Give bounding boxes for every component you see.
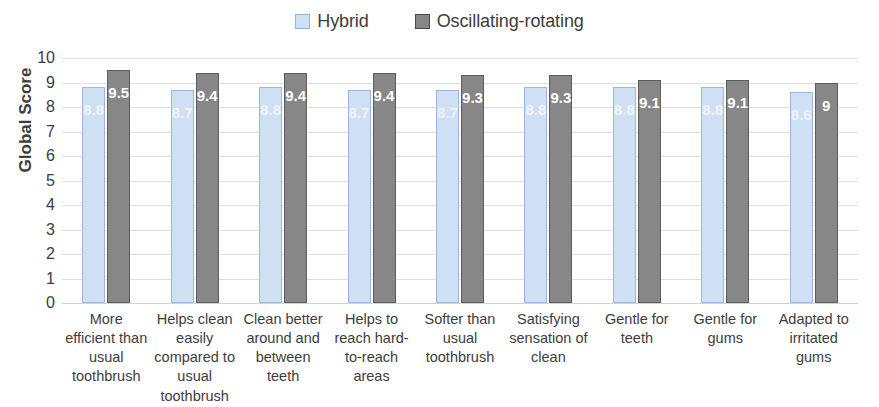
bar-value-label: 8.8 (525, 101, 546, 118)
bar-hybrid: 8.6 (790, 92, 813, 303)
y-axis-tick-label: 10 (37, 49, 55, 67)
bar-hybrid: 8.7 (171, 90, 194, 303)
bar-value-label: 8.8 (83, 101, 104, 118)
bar-oscillating-rotating: 9.4 (196, 73, 219, 303)
x-axis-category-label: Clean better around and between teeth (239, 310, 327, 406)
bar-group: 8.79.4 (150, 58, 238, 303)
bar-value-label: 9.4 (197, 87, 218, 104)
bar-value-label: 8.7 (349, 104, 370, 121)
bar-group: 8.89.1 (593, 58, 681, 303)
bar-oscillating-rotating: 9.1 (726, 80, 749, 303)
bar-hybrid: 8.7 (436, 90, 459, 303)
x-axis-category-label: Helps clean easily compared to usual too… (150, 310, 238, 406)
x-axis-category-label: Softer than usual toothbrush (416, 310, 504, 406)
legend-swatch-icon-oscillating-rotating (415, 14, 430, 29)
legend-entry-hybrid: Hybrid (295, 11, 368, 32)
legend-label-oscillating-rotating: Oscillating-rotating (437, 11, 584, 32)
bar-value-label: 8.8 (260, 101, 281, 118)
gridline (62, 303, 858, 304)
y-axis-tick-label: 2 (46, 245, 55, 263)
bar-oscillating-rotating: 9.4 (284, 73, 307, 303)
bar-value-label: 9.1 (727, 94, 748, 111)
y-axis-tick-label: 3 (46, 221, 55, 239)
bar-groups: 8.89.58.79.48.89.48.79.48.79.38.89.38.89… (62, 58, 858, 303)
y-axis-tick-label: 8 (46, 98, 55, 116)
bar-oscillating-rotating: 9.3 (549, 75, 572, 303)
bar-hybrid: 8.8 (82, 87, 105, 303)
bar-hybrid: 8.8 (701, 87, 724, 303)
bar-value-label: 9.3 (462, 89, 483, 106)
legend-label-hybrid: Hybrid (317, 11, 368, 32)
bar-value-label: 9.1 (639, 94, 660, 111)
x-axis-category-label: Adapted to irritated gums (770, 310, 858, 406)
bar-oscillating-rotating: 9.5 (107, 70, 130, 303)
bar-value-label: 9.3 (550, 89, 571, 106)
y-axis-tick-label: 1 (46, 270, 55, 288)
bar-value-label: 8.7 (437, 104, 458, 121)
bar-value-label: 9 (822, 97, 830, 114)
y-axis-title: Global Score (16, 30, 36, 210)
y-axis-tick-label: 6 (46, 147, 55, 165)
bar-group: 8.89.4 (239, 58, 327, 303)
x-axis-category-label: Gentle for teeth (593, 310, 681, 406)
bar-value-label: 8.6 (791, 106, 812, 123)
bar-hybrid: 8.8 (524, 87, 547, 303)
bar-value-label: 9.5 (108, 84, 129, 101)
y-axis-tick-label: 4 (46, 196, 55, 214)
bar-group: 8.69 (770, 58, 858, 303)
x-axis-category-label: Gentle for gums (681, 310, 769, 406)
bar-group: 8.89.1 (681, 58, 769, 303)
bar-hybrid: 8.7 (348, 90, 371, 303)
y-axis-tick-label: 5 (46, 172, 55, 190)
x-axis-category-label: Helps to reach hard-to-reach areas (327, 310, 415, 406)
bar-value-label: 8.8 (614, 101, 635, 118)
bar-value-label: 8.7 (172, 104, 193, 121)
bar-value-label: 8.8 (702, 101, 723, 118)
bar-oscillating-rotating: 9.4 (373, 73, 396, 303)
bar-value-label: 9.4 (285, 87, 306, 104)
x-axis-category-label: Satisfying sensation of clean (504, 310, 592, 406)
legend-swatch-icon-hybrid (295, 14, 310, 29)
bar-value-label: 9.4 (374, 87, 395, 104)
bar-hybrid: 8.8 (613, 87, 636, 303)
bar-hybrid: 8.8 (259, 87, 282, 303)
chart-legend: Hybrid Oscillating-rotating (0, 6, 879, 36)
bar-group: 8.89.3 (504, 58, 592, 303)
x-axis-category-label: More efficient than usual toothbrush (62, 310, 150, 406)
y-axis-tick-label: 9 (46, 74, 55, 92)
y-axis-tick-label: 0 (46, 294, 55, 312)
bar-group: 8.89.5 (62, 58, 150, 303)
bar-oscillating-rotating: 9.3 (461, 75, 484, 303)
y-axis-tick-label: 7 (46, 123, 55, 141)
x-axis-category-labels: More efficient than usual toothbrushHelp… (62, 310, 858, 406)
bar-oscillating-rotating: 9.1 (638, 80, 661, 303)
bar-group: 8.79.3 (416, 58, 504, 303)
legend-entry-oscillating-rotating: Oscillating-rotating (415, 11, 584, 32)
plot-area: 109876543210 8.89.58.79.48.89.48.79.48.7… (62, 58, 858, 303)
bar-oscillating-rotating: 9 (815, 83, 838, 304)
bar-group: 8.79.4 (327, 58, 415, 303)
